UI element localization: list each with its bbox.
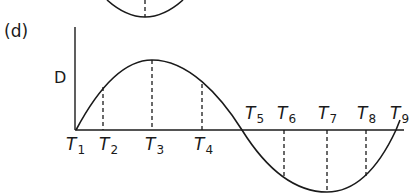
sine-curve bbox=[76, 60, 400, 192]
tick-label-t8: T8 bbox=[357, 105, 376, 125]
tick-label-t4: T4 bbox=[194, 136, 213, 156]
y-axis-label: D bbox=[54, 70, 66, 86]
tick-label-t5: T5 bbox=[245, 105, 264, 125]
dashed-guides bbox=[103, 60, 366, 192]
tick-label-t9: T9 bbox=[390, 105, 409, 125]
panel-label: (d) bbox=[4, 23, 28, 40]
tick-label-t3: T3 bbox=[145, 136, 164, 156]
tick-label-t6: T6 bbox=[277, 105, 296, 125]
tick-label-t2: T2 bbox=[99, 136, 118, 156]
tick-label-t7: T7 bbox=[318, 105, 337, 125]
tick-label-t1: T1 bbox=[66, 136, 85, 156]
